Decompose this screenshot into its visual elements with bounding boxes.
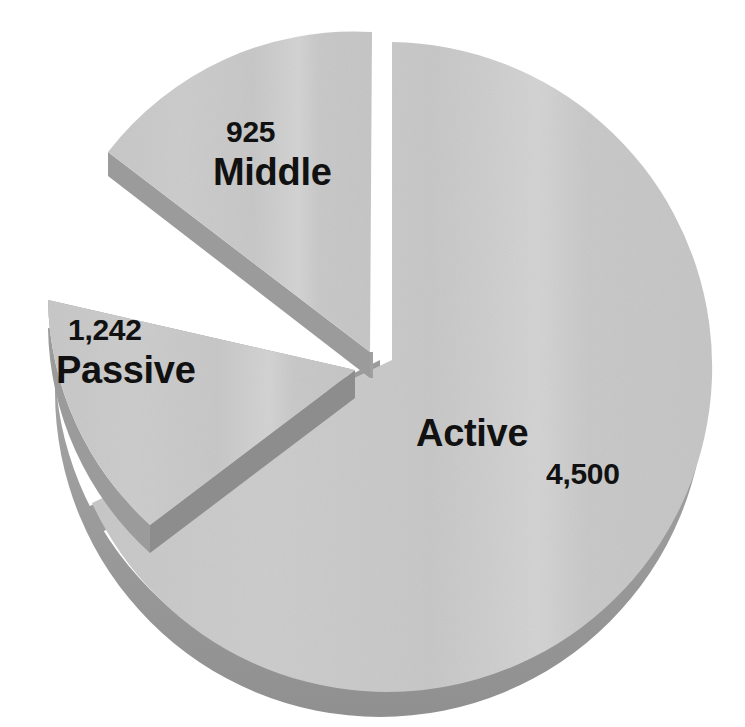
slice-label-passive-value: 1,242 xyxy=(68,315,142,345)
slice-label-passive-name: Passive xyxy=(56,351,195,389)
slice-label-active-value: 4,500 xyxy=(546,459,620,489)
pie-chart: 925 Middle 1,242 Passive Active 4,500 xyxy=(0,0,745,727)
slice-middle-wall-right xyxy=(370,352,373,378)
slice-label-middle-name: Middle xyxy=(213,153,332,191)
slice-label-active-name: Active xyxy=(416,414,528,452)
slice-label-middle-value: 925 xyxy=(226,117,275,147)
